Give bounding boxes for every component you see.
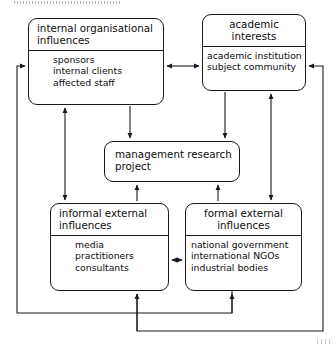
connector-feedback-right-loop (137, 66, 323, 331)
node-internal-organisational-influences[interactable]: internal organisational influences spons… (28, 18, 164, 105)
node-title-line: internal organisational (37, 22, 157, 34)
node-title-line: influences (59, 219, 162, 231)
node-items: media practitioners consultants (51, 236, 168, 276)
node-item: media (75, 239, 164, 250)
node-title-line: influences (192, 219, 295, 231)
node-item: national government (191, 239, 297, 250)
node-title-line: formal external (192, 207, 295, 219)
node-title-line: influences (37, 34, 157, 46)
node-title-line: academic (209, 18, 299, 30)
node-item: internal clients (53, 65, 159, 76)
node-items: national government international NGOs i… (186, 236, 301, 276)
node-formal-external-influences[interactable]: formal external influences national gove… (185, 203, 302, 291)
diagram-canvas: academic interests --> informal external… (0, 0, 336, 348)
node-item: sponsors (53, 54, 159, 65)
node-title: academic interests (203, 15, 305, 46)
node-title: formal external influences (186, 204, 301, 235)
node-title-line: interests (209, 30, 299, 42)
node-item: industrial bodies (191, 262, 297, 273)
node-title: internal organisational influences (29, 19, 163, 50)
node-item: academic institution (207, 50, 301, 61)
node-items: sponsors internal clients affected staff (29, 51, 163, 91)
node-management-research-project[interactable]: management research project (104, 141, 240, 182)
node-item: practitioners (75, 250, 164, 261)
node-title: management research project (105, 142, 239, 176)
node-item: international NGOs (191, 250, 297, 261)
node-informal-external-influences[interactable]: informal external influences media pract… (50, 203, 169, 291)
node-item: affected staff (53, 77, 159, 88)
node-items: academic institution subject community (203, 47, 305, 76)
node-academic-interests[interactable]: academic interests academic institution … (202, 14, 306, 91)
node-item: subject community (207, 61, 301, 72)
node-title-line: informal external (59, 207, 162, 219)
node-item: consultants (75, 262, 164, 273)
scan-artifact-corner (317, 339, 333, 344)
node-title-line: project (115, 160, 233, 172)
node-title-line: management research (115, 148, 233, 160)
node-title: informal external influences (51, 204, 168, 235)
